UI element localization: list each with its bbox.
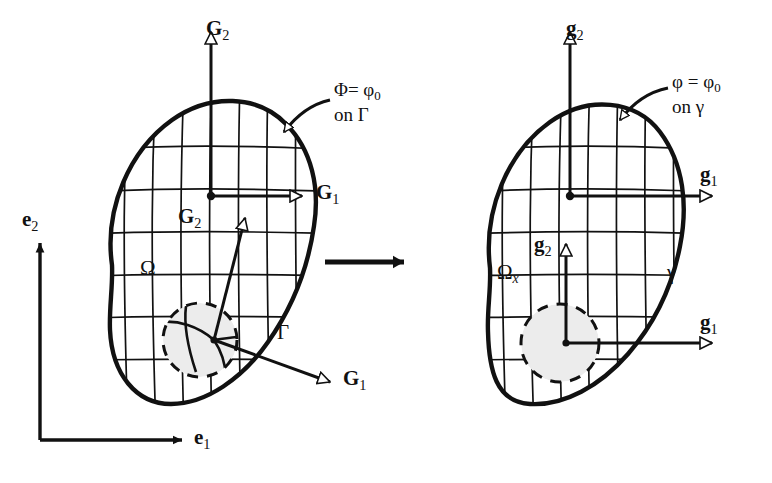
current-boundary-condition: φ = φ0 on γ: [672, 72, 721, 116]
reference-bc-rhs-sub: 0: [374, 88, 380, 103]
reference-basis-label-G1-outer: G1: [316, 182, 339, 206]
current-bc-boundary: γ: [696, 96, 704, 117]
reference-material-point: [210, 336, 217, 343]
current-bc-rhs: φ: [703, 71, 714, 92]
current-basis-label-g2-inner: g2: [534, 234, 552, 258]
reference-boundary-label: Γ: [277, 322, 289, 343]
axis-label-e2: e2: [22, 209, 38, 233]
reference-boundary-condition: Φ= φ0 on Γ: [334, 80, 381, 124]
current-material-point: [562, 339, 569, 346]
current-origin-point: [566, 192, 574, 200]
current-basis-label-g2-outer: g2: [566, 18, 584, 42]
current-boundary-label: γ: [667, 262, 676, 283]
figure-canvas: e2 e1 G2 G1 G2 G1 Ω Γ Φ= φ0 on Γ g2 g1 g…: [0, 0, 772, 483]
current-basis-label-g1-outer: g1: [700, 164, 718, 188]
current-domain-label: Ωx: [497, 262, 519, 286]
reference-configuration-group: [88, 32, 342, 434]
current-bc-on: on: [672, 96, 691, 117]
reference-basis-label-G1-inner: G1: [343, 368, 366, 392]
diagram-svg: [0, 0, 772, 483]
current-basis-label-g1-inner: g1: [700, 312, 718, 336]
reference-basis-label-G2-inner: G2: [178, 206, 201, 230]
axis-label-e1: e1: [194, 427, 210, 451]
reference-origin-point: [207, 192, 215, 200]
current-bc-rhs-sub: 0: [714, 80, 720, 95]
reference-bc-rhs: φ: [363, 79, 374, 100]
reference-bc-on: on: [334, 104, 353, 125]
reference-basis-label-G2-outer: G2: [206, 18, 229, 42]
reference-bc-boundary: Γ: [358, 104, 369, 125]
current-bc-lhs: φ =: [672, 71, 698, 92]
reference-domain-label: Ω: [140, 258, 156, 279]
reference-bc-lhs: Φ=: [334, 79, 359, 100]
